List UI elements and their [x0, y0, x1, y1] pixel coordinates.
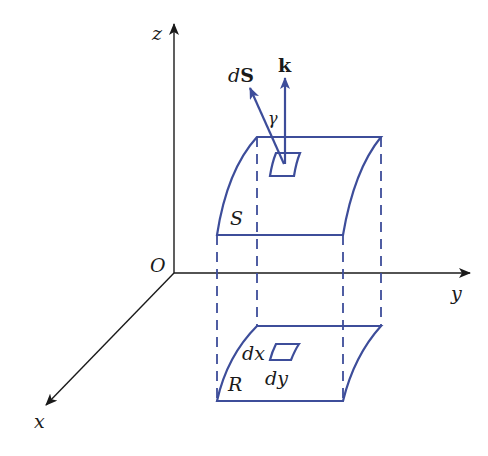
surface-label: S: [230, 207, 243, 229]
surface-integral-diagram: z y x O S dS k γ R dx dy: [0, 0, 488, 456]
angle-gamma-label: γ: [268, 109, 278, 128]
k-vector-label: k: [278, 54, 292, 76]
x-axis-label: x: [34, 410, 45, 432]
dy-label: dy: [265, 367, 288, 389]
normal-vector-ds: [250, 88, 284, 164]
dx-label: dx: [242, 342, 265, 364]
x-axis: [46, 273, 174, 405]
region-r: R dx dy: [217, 326, 381, 401]
region-element-patch: [270, 344, 299, 360]
z-axis-label: z: [151, 22, 163, 44]
normal-vector-label: dS: [228, 64, 254, 86]
vectors: dS k γ: [228, 54, 292, 164]
y-axis-label: y: [450, 282, 462, 304]
origin-label: O: [150, 254, 166, 276]
region-label: R: [227, 373, 242, 395]
surface-s: S: [217, 137, 381, 235]
